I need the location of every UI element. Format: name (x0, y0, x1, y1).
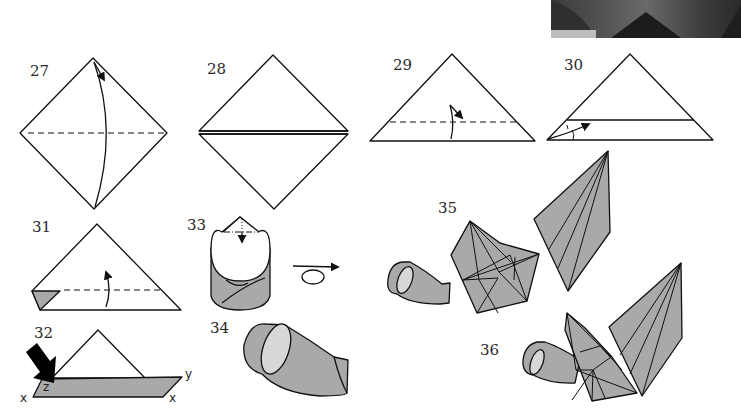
point-label-x-right: x (169, 391, 176, 405)
point-label-z: z (43, 380, 49, 394)
step-35: 35 (388, 151, 610, 313)
step-label-36: 36 (480, 341, 499, 359)
top-point (223, 217, 259, 232)
step-33: 33 (187, 216, 338, 310)
lower-triangle (199, 134, 348, 209)
step-label-31: 31 (32, 218, 51, 236)
step-27: 27 (20, 58, 167, 209)
step-34: 34 (210, 319, 348, 396)
step-label-27: 27 (30, 62, 49, 80)
push-arrow-icon (26, 343, 56, 383)
step-31: 31 (32, 218, 181, 310)
gray-strip (33, 377, 182, 397)
step-32: 32 z y x x (20, 324, 192, 405)
triangle (52, 330, 145, 378)
step-label-35: 35 (438, 199, 457, 217)
horn-body (244, 324, 348, 396)
step-label-33: 33 (187, 216, 206, 234)
body-piece (451, 221, 539, 313)
step-label-34: 34 (210, 319, 229, 337)
step-label-28: 28 (207, 60, 226, 78)
assembled-model (523, 263, 682, 401)
step-30: 30 (547, 54, 713, 140)
step-label-29: 29 (393, 56, 412, 74)
point-label-x-left: x (20, 391, 27, 405)
wing-piece (534, 151, 610, 291)
step-29: 29 (370, 54, 535, 141)
step-label-30: 30 (564, 56, 583, 74)
turn-over-icon (293, 266, 338, 284)
diagram-canvas: 27 28 29 30 31 32 (0, 0, 741, 416)
step-28: 28 (199, 55, 348, 209)
step-label-32: 32 (34, 324, 53, 342)
point-label-y: y (185, 367, 192, 381)
